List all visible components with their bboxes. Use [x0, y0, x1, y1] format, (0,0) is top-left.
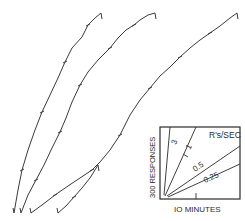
- record-reset-mark: [98, 165, 99, 171]
- rate-line-05: [167, 146, 240, 196]
- x-axis-label: IO MINUTES: [174, 205, 221, 214]
- record-reset-mark: [101, 13, 102, 19]
- rate-line-1: [165, 127, 196, 196]
- record-start-mark: [20, 208, 21, 213]
- reinforcement-pip: [132, 24, 136, 26]
- y-axis-label: 300 RESPONSES: [148, 137, 157, 198]
- legend-title: R's/SEC: [209, 130, 241, 140]
- cumulative-record-chart: R's/SEC 3 1 0.5 0.25 300 RESPONSES IO MI…: [0, 0, 245, 221]
- record-start-mark: [30, 208, 31, 213]
- record-start-mark: [57, 208, 58, 213]
- record-reset-mark: [155, 13, 156, 19]
- reinforcement-pip: [208, 32, 212, 34]
- record-start-mark: [13, 208, 14, 213]
- record-reset-mark: [237, 13, 238, 19]
- rate-1-marker: [183, 154, 188, 157]
- rate-label-05: 0.5: [191, 160, 206, 174]
- cumulative-record-record-1: [14, 13, 101, 213]
- rate-legend: R's/SEC 3 1 0.5 0.25 300 RESPONSES IO MI…: [148, 127, 241, 214]
- reinforcement-pip: [53, 194, 57, 196]
- rate-label-025: 0.25: [202, 170, 220, 185]
- rate-label-3: 3: [169, 138, 179, 146]
- rate-line-3: [164, 127, 170, 195]
